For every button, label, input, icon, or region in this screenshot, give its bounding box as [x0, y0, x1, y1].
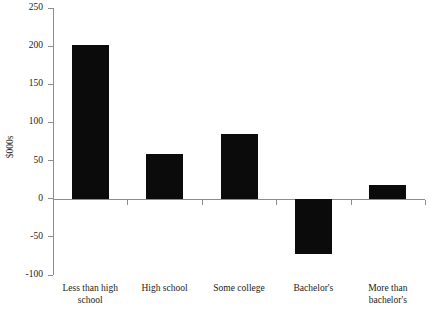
y-tick-label: -100	[26, 270, 43, 280]
y-tick-label: 100	[29, 117, 43, 127]
x-category-label: More than bachelor's	[351, 283, 425, 306]
y-tick-label: 0	[38, 194, 43, 204]
bar	[146, 154, 183, 199]
bar	[221, 134, 258, 199]
x-tick-mark	[127, 200, 128, 205]
bar	[369, 185, 406, 199]
x-tick-mark	[202, 200, 203, 205]
y-axis-title: $000s	[5, 119, 15, 175]
x-axis-zero-line	[53, 199, 425, 200]
x-tick-mark	[351, 200, 352, 205]
y-tick-mark	[48, 160, 53, 161]
x-tick-mark	[276, 200, 277, 205]
y-tick-label: 200	[29, 41, 43, 51]
x-category-label: Bachelor's	[276, 283, 350, 295]
x-category-label: Less than high school	[53, 283, 127, 306]
x-category-label: High school	[127, 283, 201, 295]
y-tick-mark	[48, 122, 53, 123]
y-tick-mark	[48, 8, 53, 9]
y-tick-mark	[48, 84, 53, 85]
x-tick-mark	[425, 200, 426, 205]
y-tick-label: 50	[34, 156, 44, 166]
y-tick-label: 150	[29, 79, 43, 89]
y-tick-mark	[48, 236, 53, 237]
x-category-label: Some college	[202, 283, 276, 295]
y-tick-label: -50	[30, 232, 43, 242]
y-tick-mark	[48, 46, 53, 47]
y-tick-mark	[48, 275, 53, 276]
bar	[295, 199, 332, 254]
bar	[72, 45, 109, 199]
y-axis-line	[53, 8, 54, 275]
y-tick-label: 250	[29, 3, 43, 13]
bar-chart: $000s 250200150100500-50-100 Less than h…	[0, 0, 432, 315]
y-tick-mark	[48, 198, 53, 199]
